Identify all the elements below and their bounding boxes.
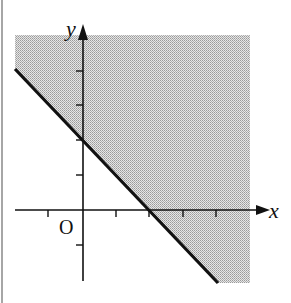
coordinate-plane: y x O xyxy=(0,0,291,303)
x-axis-label: x xyxy=(268,198,279,223)
x-axis-arrow-icon xyxy=(256,205,270,215)
origin-label: O xyxy=(59,216,73,238)
y-axis-arrow-icon xyxy=(78,24,88,40)
y-axis-label: y xyxy=(64,16,76,41)
shaded-region xyxy=(15,35,250,283)
